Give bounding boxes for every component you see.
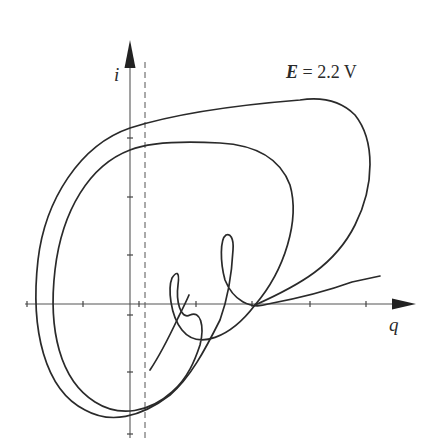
i-axis-label: i <box>114 64 119 86</box>
parameter-symbol: E <box>286 62 298 82</box>
phase-portrait-figure <box>0 0 436 447</box>
inner-trajectory <box>53 142 293 411</box>
q-axis-label: q <box>389 314 399 336</box>
i-axis <box>125 40 136 438</box>
parameter-unit: V <box>344 62 357 82</box>
parameter-value: 2.2 <box>317 62 340 82</box>
outer-trajectory <box>36 99 380 418</box>
q-axis <box>25 299 416 310</box>
parameter-equals: = <box>303 62 313 82</box>
parameter-label: E = 2.2 V <box>286 62 357 83</box>
q-axis-arrow-icon <box>392 299 416 310</box>
i-axis-arrow-icon <box>125 40 136 68</box>
